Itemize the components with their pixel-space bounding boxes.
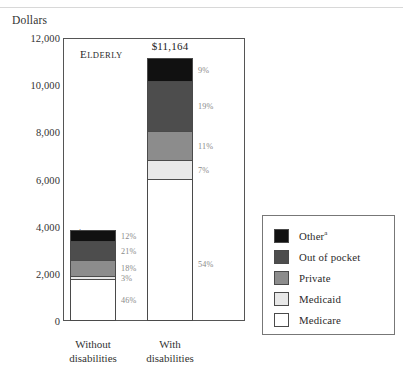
legend-swatch-private-icon <box>274 271 289 285</box>
legend-label-other: Othera <box>299 229 328 242</box>
bar-segment-private-with-disabilities[interactable] <box>147 131 193 160</box>
bar-percent-medicaid-without-disabilities: 3% <box>121 273 132 282</box>
legend-label-out-of-pocket: Out of pocket <box>299 251 360 263</box>
legend-swatch-medicare-icon <box>274 313 289 327</box>
panel-label-text: ELDERLY <box>80 48 123 60</box>
bar-segment-other-without-disabilities[interactable] <box>70 230 116 241</box>
bar-segment-medicare-with-disabilities[interactable] <box>147 179 193 321</box>
bar-percent-private-without-disabilities: 18% <box>121 264 137 273</box>
legend-swatch-other-icon <box>274 229 289 243</box>
bar-total-label-with-disabilities: $11,164 <box>122 40 218 52</box>
bar-percent-medicaid-with-disabilities: 7% <box>198 165 209 174</box>
y-axis-ticks: 12,000 10,000 8,000 6,000 4,000 2,000 0 <box>0 0 60 383</box>
top-rule-divider <box>0 7 403 8</box>
bar-segment-out-of-pocket-without-disabilities[interactable] <box>70 241 116 260</box>
bar-segment-other-with-disabilities[interactable] <box>147 58 193 82</box>
legend-label-medicare: Medicare <box>299 314 341 326</box>
bar-percent-medicare-with-disabilities: 54% <box>198 260 214 269</box>
stacked-bar-with-disabilities[interactable] <box>147 58 193 321</box>
legend-item-private[interactable]: Private <box>263 267 394 288</box>
bar-percent-out-of-pocket-without-disabilities: 21% <box>121 246 137 255</box>
legend-item-medicaid[interactable]: Medicaid <box>263 288 394 309</box>
bar-segment-medicare-without-disabilities[interactable] <box>70 279 116 321</box>
bar-segment-medicaid-with-disabilities[interactable] <box>147 160 193 178</box>
legend-swatch-medicaid-icon <box>274 292 289 306</box>
legend-label-other-text: Other <box>299 230 324 242</box>
bar-percent-private-with-disabilities: 11% <box>198 141 213 150</box>
legend-item-out-of-pocket[interactable]: Out of pocket <box>263 246 394 267</box>
bar-segment-private-without-disabilities[interactable] <box>70 260 116 276</box>
bar-percent-other-without-disabilities: 12% <box>121 231 137 240</box>
stacked-bar-without-disabilities[interactable] <box>70 230 116 321</box>
x-axis-category-with-disabilities: With disabilities <box>115 338 225 365</box>
chart-legend: Othera Out of pocket Private Medicaid Me… <box>262 215 395 335</box>
bar-segment-out-of-pocket-with-disabilities[interactable] <box>147 81 193 131</box>
legend-label-private: Private <box>299 272 331 284</box>
legend-label-other-superscript: a <box>324 229 327 237</box>
legend-label-medicaid: Medicaid <box>299 293 341 305</box>
x-axis-category-with-disabilities-line1: With <box>115 338 225 352</box>
legend-item-medicare[interactable]: Medicare <box>263 309 394 330</box>
chart-figure: Dollars 12,000 10,000 8,000 6,000 4,000 … <box>0 0 403 383</box>
panel-label-elderly: ELDERLY <box>80 48 123 60</box>
bar-percent-out-of-pocket-with-disabilities: 19% <box>198 102 214 111</box>
bar-percent-other-with-disabilities: 9% <box>198 65 209 74</box>
legend-swatch-out-of-pocket-icon <box>274 250 289 264</box>
y-tick-label-6000: 6,000 <box>4 174 60 185</box>
y-tick-label-2000: 2,000 <box>4 268 60 279</box>
legend-item-other[interactable]: Othera <box>263 225 394 246</box>
y-tick-label-12000: 12,000 <box>4 33 60 44</box>
y-tick-label-0: 0 <box>4 316 60 327</box>
y-tick-label-8000: 8,000 <box>4 127 60 138</box>
y-tick-label-10000: 10,000 <box>4 80 60 91</box>
x-axis-category-with-disabilities-line2: disabilities <box>115 352 225 366</box>
bar-percent-medicare-without-disabilities: 46% <box>121 296 137 305</box>
